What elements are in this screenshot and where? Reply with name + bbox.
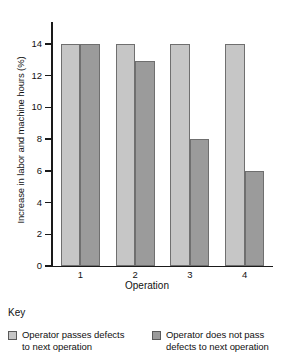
key-heading: Key [8, 307, 25, 318]
bars-layer [0, 0, 294, 266]
bar-1-series1 [61, 44, 81, 266]
bar-2-series1 [116, 44, 136, 266]
bar-3-series2 [190, 139, 210, 266]
legend-swatch-dark [152, 331, 161, 340]
legend-label-passes-defects: Operator passes defects to next operatio… [22, 329, 124, 352]
bar-1-series2 [80, 44, 100, 266]
legend-entry-does-not-pass-defects: Operator does not pass defects to next o… [152, 329, 269, 352]
legend-swatch-light [8, 331, 17, 340]
bar-2-series2 [135, 61, 155, 266]
legend-label-does-not-pass-defects: Operator does not pass defects to next o… [166, 329, 269, 352]
x-tick-label: 4 [230, 269, 260, 280]
x-tick-label: 2 [120, 269, 150, 280]
x-tick-label: 1 [65, 269, 95, 280]
legend-entry-passes-defects: Operator passes defects to next operatio… [8, 329, 124, 352]
plot-area: Increase in labor and machine hours (%) … [0, 0, 294, 300]
bar-chart-figure: Increase in labor and machine hours (%) … [0, 0, 294, 358]
bar-4-series2 [245, 171, 265, 266]
x-axis-title: Operation [0, 280, 294, 291]
bar-3-series1 [170, 44, 190, 266]
x-tick-label: 3 [175, 269, 205, 280]
bar-4-series1 [225, 44, 245, 266]
